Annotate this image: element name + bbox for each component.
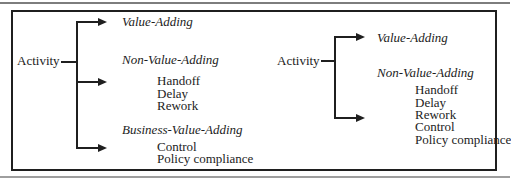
right-item-policy-compliance: Policy compliance <box>415 134 511 146</box>
right-tree-stem-line <box>321 60 335 62</box>
left-tree-root-label: Activity <box>17 55 60 67</box>
top-rule-divider <box>0 2 510 4</box>
right-branch1-arrowhead-icon <box>356 33 365 41</box>
left-tree-stem-line <box>61 61 77 63</box>
right-branch2-arrowhead-icon <box>356 114 365 122</box>
left-category-value-adding: Value-Adding <box>122 16 193 28</box>
left-category-business-value-adding: Business-Value-Adding <box>122 124 243 136</box>
right-category-non-value-adding: Non-Value-Adding <box>377 67 474 79</box>
left-branch1-arrowhead-icon <box>98 18 107 26</box>
left-branch2-arrowhead-icon <box>98 78 107 86</box>
right-branch1-line <box>334 36 356 38</box>
left-tree-vertical-line <box>76 21 78 149</box>
left-item-policy-compliance: Policy compliance <box>157 153 253 165</box>
left-branch1-line <box>76 21 98 23</box>
right-branch2-line <box>334 117 356 119</box>
right-category-value-adding: Value-Adding <box>377 32 448 44</box>
left-item-rework: Rework <box>157 100 198 112</box>
left-branch3-line <box>76 147 98 149</box>
left-branch3-arrowhead-icon <box>98 144 107 152</box>
left-category-non-value-adding: Non-Value-Adding <box>122 54 219 66</box>
left-branch2-line <box>76 81 98 83</box>
right-tree-vertical-line <box>334 36 336 119</box>
right-tree-root-label: Activity <box>277 55 320 67</box>
bottom-rule-divider <box>0 176 510 178</box>
